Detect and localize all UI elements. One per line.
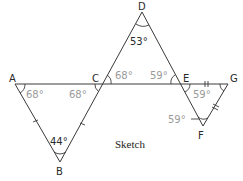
angle-arc-C-upper	[107, 75, 111, 84]
segment-DF	[142, 12, 203, 126]
angle-arc-E-upper	[171, 75, 175, 84]
vertex-label-C: C	[92, 73, 99, 84]
vertex-label-B: B	[56, 166, 63, 177]
angle-label-F: 59°	[168, 114, 186, 125]
caption-sketch: Sketch	[115, 138, 145, 150]
angle-label-C-in-ABC: 68°	[69, 89, 87, 100]
angle-label-E-in-EFG: 59°	[193, 89, 211, 100]
angle-label-D: 53°	[130, 36, 148, 47]
vertex-label-D: D	[138, 1, 146, 12]
vertex-label-G: G	[230, 73, 238, 84]
angle-label-B: 44°	[50, 136, 68, 147]
vertex-label-E: E	[183, 73, 189, 84]
vertex-label-A: A	[9, 73, 16, 84]
angle-arc-A	[20, 84, 25, 93]
angle-label-A: 68°	[26, 89, 44, 100]
angle-label-E-in-CDE: 59°	[150, 70, 168, 81]
geometry-sketch: A B C D E F G 68° 68° 44° 53° 68° 59° 59…	[0, 0, 243, 181]
angle-arc-C-lower	[95, 84, 98, 91]
angle-arc-D	[136, 24, 149, 26]
angle-label-C-in-CDE: 68°	[115, 70, 133, 81]
angle-arc-G	[220, 84, 224, 91]
angle-arc-E-lower	[185, 84, 190, 92]
vertex-label-F: F	[198, 130, 204, 141]
